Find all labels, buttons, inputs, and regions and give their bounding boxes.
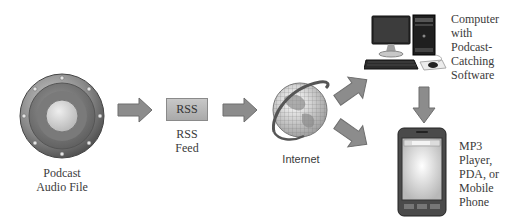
computer-label-line1: Computer	[451, 12, 525, 26]
arrow-down-right-icon	[332, 116, 372, 152]
rss-label-line1: RSS	[160, 127, 214, 141]
rss-label-line2: Feed	[160, 141, 214, 155]
arrow-right-icon	[222, 97, 258, 123]
computer-label-line5: Software	[451, 68, 525, 82]
mobile-label-line1: MP3	[459, 139, 525, 153]
podcast-label-line1: Podcast	[20, 166, 104, 180]
mobile-label-line2: Player,	[459, 153, 525, 167]
mobile-label-line4: Mobile	[459, 181, 525, 195]
internet-label: Internet	[270, 152, 332, 166]
computer-label-line4: Catching	[451, 54, 525, 68]
podcast-label-line2: Audio File	[20, 180, 104, 194]
desktop-computer-icon	[364, 10, 450, 72]
mobile-label-line3: PDA, or	[459, 167, 525, 181]
rss-feed-box: RSS	[166, 98, 208, 121]
mobile-label-line5: Phone	[459, 195, 525, 209]
arrow-up-right-icon	[332, 72, 372, 108]
podcast-distribution-diagram: Podcast Audio File RSS RSS Feed Internet	[0, 0, 525, 224]
pda-icon	[396, 126, 448, 220]
globe-icon	[268, 76, 334, 146]
speaker-icon	[18, 72, 106, 160]
arrow-down-icon	[412, 86, 436, 124]
computer-label-line2: with	[451, 26, 525, 40]
arrow-right-icon	[117, 97, 153, 123]
computer-label-line3: Podcast-	[451, 40, 525, 54]
